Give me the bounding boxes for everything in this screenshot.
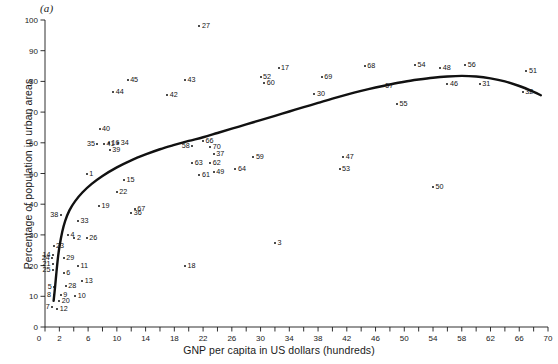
x-tick-label: 42 <box>342 334 351 343</box>
data-point <box>382 85 384 87</box>
data-point <box>63 272 65 274</box>
data-point <box>127 79 129 81</box>
x-tick-label: 50 <box>400 334 409 343</box>
data-point <box>109 149 111 151</box>
data-point-label: 46 <box>450 81 458 88</box>
data-point <box>191 162 193 164</box>
data-point-label: 68 <box>367 62 375 69</box>
data-point-label: 64 <box>238 165 246 172</box>
x-tick-label: 22 <box>199 334 208 343</box>
data-point-label: 8 <box>47 291 51 298</box>
data-point-label: 62 <box>213 159 221 166</box>
data-point-label: 30 <box>317 90 325 97</box>
data-point-label: 63 <box>195 159 203 166</box>
data-point <box>53 294 55 296</box>
data-point <box>313 93 315 95</box>
data-point-label: 45 <box>130 76 138 83</box>
data-point <box>321 76 323 78</box>
x-tick-label: 66 <box>515 334 524 343</box>
data-point <box>446 83 448 85</box>
x-tick-label: 14 <box>141 334 150 343</box>
data-point-label: 70 <box>213 144 221 151</box>
data-point-label: 61 <box>202 171 210 178</box>
x-axis-title: GNP per capita in US dollars (hundreds) <box>0 344 558 356</box>
data-point-label: 49 <box>216 168 224 175</box>
data-point-label: 17 <box>281 64 289 71</box>
data-point <box>522 91 524 93</box>
data-point <box>191 145 193 147</box>
data-point <box>74 295 76 297</box>
data-point <box>274 242 276 244</box>
data-point-label: 19 <box>101 202 109 209</box>
data-point-label: 44 <box>116 89 124 96</box>
data-point-label: 10 <box>78 293 86 300</box>
data-point <box>525 70 527 72</box>
data-point <box>96 143 98 145</box>
data-point-label: 55 <box>400 101 408 108</box>
data-point-label: 33 <box>81 217 89 224</box>
data-point <box>53 286 55 288</box>
data-point <box>209 162 211 164</box>
data-point <box>234 168 236 170</box>
data-point <box>77 220 79 222</box>
plot-axes <box>0 0 558 364</box>
y-axis-title: Percentage of population in urban areas <box>22 54 34 294</box>
data-point-label: 40 <box>102 125 110 132</box>
x-tick-label: 30 <box>256 334 265 343</box>
data-point <box>213 153 215 155</box>
data-point <box>184 265 186 267</box>
data-point-label: 69 <box>324 73 332 80</box>
data-point <box>86 173 88 175</box>
x-tick-label: 10 <box>112 334 121 343</box>
data-point-label: 26 <box>89 234 97 241</box>
data-point-label: 51 <box>529 67 537 74</box>
x-tick-label: 70 <box>544 334 553 343</box>
data-point-label: 57 <box>385 82 393 89</box>
data-point <box>278 67 280 69</box>
x-tick-label: 18 <box>170 334 179 343</box>
data-point <box>77 265 79 267</box>
data-point <box>166 94 168 96</box>
data-point-label: 56 <box>468 61 476 68</box>
data-point-label: 15 <box>127 176 135 183</box>
x-tick-label: 62 <box>486 334 495 343</box>
data-point <box>209 146 211 148</box>
data-point <box>432 186 434 188</box>
data-point <box>81 280 83 282</box>
y-tick-label: 100 <box>8 16 38 25</box>
scatter-plot-figure: (a) 0102030405060708090100 0261014182226… <box>0 0 558 364</box>
data-point <box>202 140 204 142</box>
data-point <box>112 91 114 93</box>
data-point <box>86 237 88 239</box>
data-point <box>198 25 200 27</box>
data-point <box>103 143 105 145</box>
data-point-label: 42 <box>170 92 178 99</box>
data-point <box>52 254 54 256</box>
data-point-label: 38 <box>50 211 58 218</box>
data-point-label: 20 <box>62 297 70 304</box>
x-tick-label: 0 <box>37 334 41 343</box>
x-tick-label: 46 <box>371 334 380 343</box>
data-point-label: 50 <box>436 184 444 191</box>
x-tick-label: 38 <box>314 334 323 343</box>
data-point-label: 35 <box>87 141 95 148</box>
data-point <box>116 191 118 193</box>
data-point <box>184 79 186 81</box>
data-point <box>130 212 132 214</box>
data-point <box>439 67 441 69</box>
data-point <box>52 263 54 265</box>
data-point <box>414 64 416 66</box>
data-point <box>99 128 101 130</box>
data-point-label: 13 <box>85 277 93 284</box>
x-tick-label: 2 <box>57 334 61 343</box>
data-point-label: 1 <box>89 170 93 177</box>
data-point <box>339 168 341 170</box>
data-point <box>263 82 265 84</box>
data-point <box>464 64 466 66</box>
x-tick-label: 34 <box>285 334 294 343</box>
data-point-label: 60 <box>267 79 275 86</box>
data-point-label: 18 <box>188 262 196 269</box>
data-point <box>65 285 67 287</box>
data-point-label: 48 <box>443 64 451 71</box>
data-point <box>51 306 53 308</box>
